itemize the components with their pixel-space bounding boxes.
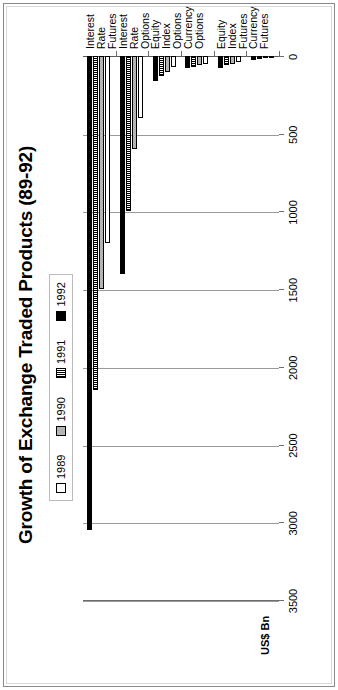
bar-1989-currency-options [203,56,208,64]
bar-1989-interest-rate-options [138,56,143,118]
category-label: Equity Index Futures [216,0,249,49]
legend-label-1989: 1989 [55,455,67,479]
category-tick [181,51,182,57]
legend-label-1990: 1990 [55,397,67,421]
bar-1990-currency-futures [263,56,268,58]
bar-group [120,56,145,600]
bar-1990-currency-options [197,56,202,65]
bar-1992-currency-futures [251,56,256,60]
category-label: Currency Options [183,0,205,49]
bar-1990-equity-index-options [165,56,170,72]
legend-swatch-1991 [56,368,66,378]
gridline [83,212,279,213]
chart-page: Growth of Exchange Traded Products (89-9… [0,0,338,690]
category-label: Interest Rate Futures [85,0,118,49]
legend-swatch-1990 [56,426,66,436]
axis-tick [279,56,284,57]
axis-tick [279,600,284,601]
chart-title: Growth of Exchange Traded Products (89-9… [15,15,37,675]
bar-1991-interest-rate-futures [93,56,98,390]
legend-item-1990: 1990 [55,397,67,435]
category-tick [246,51,247,57]
axis-tick-label: 0 [287,54,299,60]
category-tick [214,51,215,57]
bar-group [218,56,243,600]
gridline [83,368,279,369]
bar-group [185,56,210,600]
gridline [83,446,279,447]
axis-tick [279,445,284,446]
bar-1991-equity-index-options [159,56,164,76]
axis-tick-label: 3000 [287,511,299,535]
category-label: Equity Index Options [150,0,183,49]
legend-swatch-1989 [56,483,66,493]
legend-item-1989: 1989 [55,455,67,493]
bar-1991-interest-rate-options [126,56,131,211]
bar-1989-equity-index-futures [236,56,241,62]
chart-legend: 1989 1990 1991 1992 [49,274,73,501]
axis-tick [279,522,284,523]
gridline [83,135,279,136]
axis-tick [279,134,284,135]
bar-1989-currency-futures [269,56,274,58]
category-label: Currency Futures [248,0,270,49]
axis-tick-label: 500 [287,126,299,144]
legend-item-1991: 1991 [55,340,67,378]
legend-swatch-1992 [56,311,66,321]
bar-1991-currency-options [191,56,196,67]
axis-tick-label: 2500 [287,433,299,457]
axis-tick-label: 2000 [287,356,299,380]
bar-1990-interest-rate-options [132,56,137,149]
category-label: Interest Rate Options [118,0,151,49]
bar-group [251,56,276,600]
gridline [83,601,279,602]
bar-1990-interest-rate-futures [99,56,104,289]
axis-tick-label: 1000 [287,200,299,224]
category-tick [148,51,149,57]
bar-1989-equity-index-options [171,56,176,67]
category-tick [116,51,117,57]
axis-tick [279,289,284,290]
gridline [83,523,279,524]
axis-unit-label: US$ Bn [259,616,271,655]
bar-1992-equity-index-options [153,56,158,81]
bar-1992-equity-index-futures [218,56,223,68]
bar-1992-interest-rate-futures [87,56,92,530]
chart-canvas: Growth of Exchange Traded Products (89-9… [9,15,329,675]
axis-tick [279,367,284,368]
bar-1992-currency-options [185,56,190,68]
bar-group [87,56,112,600]
bar-1989-interest-rate-futures [105,56,110,243]
legend-item-1992: 1992 [55,282,67,320]
legend-label-1992: 1992 [55,282,67,306]
plot-area [83,57,279,601]
axis-tick-label: 3500 [287,589,299,613]
axis-tick [279,211,284,212]
legend-label-1991: 1991 [55,340,67,364]
bar-1991-currency-futures [257,56,262,59]
bar-group [153,56,178,600]
gridline [83,290,279,291]
axis-tick-label: 1500 [287,278,299,302]
bar-1992-interest-rate-options [120,56,125,274]
bar-1991-equity-index-futures [224,56,229,65]
bar-1990-equity-index-futures [230,56,235,64]
